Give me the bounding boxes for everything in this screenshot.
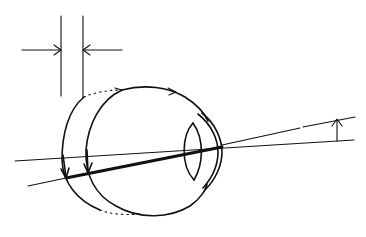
angle-marker [332,119,342,141]
globe-top-arc [122,87,208,121]
eye-displacement-diagram [0,0,366,237]
displacement-marker [22,16,122,98]
globe-outline [86,87,208,216]
